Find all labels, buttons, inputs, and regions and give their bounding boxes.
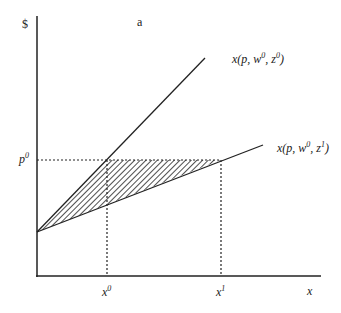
curve-z0-label: x(p, w0, z0) xyxy=(232,51,284,67)
demand-curve-z0 xyxy=(37,58,205,232)
panel-label: a xyxy=(137,15,142,30)
demand-curve-z1 xyxy=(37,145,263,232)
curve-z1-label: x(p, w0, z1) xyxy=(277,140,329,156)
price-label: p0 xyxy=(19,151,29,167)
x0-label: x0 xyxy=(102,284,111,300)
diagram-svg xyxy=(0,0,341,313)
diagram-canvas: $ a x(p, w0, z0) x(p, w0, z1) p0 x0 x1 x xyxy=(0,0,341,313)
y-axis-label: $ xyxy=(22,17,28,32)
x-axis-label: x xyxy=(307,284,312,299)
x1-label: x1 xyxy=(216,284,225,300)
